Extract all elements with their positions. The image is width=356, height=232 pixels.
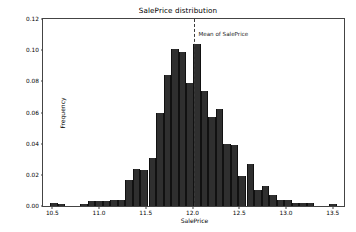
y-axis-tick-mark (41, 81, 44, 82)
mean-line-label: Mean of SalePrice (198, 31, 248, 37)
mean-line (194, 19, 195, 206)
histogram-bar (292, 203, 300, 206)
histogram-bar (125, 180, 133, 206)
histogram-bar (201, 91, 209, 206)
x-axis-tick-mark (52, 206, 53, 209)
y-axis-tick-mark (41, 143, 44, 144)
histogram-bar (223, 144, 231, 206)
histogram-bar (80, 204, 88, 206)
histogram-bar (186, 83, 194, 206)
histogram-bar (238, 176, 246, 206)
histogram-bar (58, 204, 66, 206)
histogram-bar (208, 117, 216, 206)
y-axis-tick-mark (41, 174, 44, 175)
histogram-bar (110, 200, 118, 206)
x-axis-tick-mark (286, 206, 287, 209)
x-axis-tick-mark (145, 206, 146, 209)
histogram-bar (140, 170, 148, 206)
histogram-bar (156, 113, 164, 207)
histogram-bar (254, 190, 262, 206)
y-axis-tick-mark (41, 50, 44, 51)
x-axis-tick-mark (332, 206, 333, 209)
y-axis-tick-mark (41, 19, 44, 20)
histogram-bar (231, 145, 239, 206)
histogram-bar (299, 203, 307, 206)
y-axis-tick-mark (41, 112, 44, 113)
histogram-bar (262, 186, 270, 206)
histogram-bar (179, 52, 187, 206)
x-axis-tick-mark (99, 206, 100, 209)
histogram-bar (149, 158, 157, 206)
histogram-bar (164, 75, 172, 206)
x-axis-tick-mark (239, 206, 240, 209)
histogram-bar (307, 203, 315, 206)
histogram-figure: SalePrice distribution Mean of SalePrice… (0, 0, 356, 232)
x-axis-label: SalePrice (43, 217, 346, 224)
y-axis-tick-mark (41, 206, 44, 207)
plot-area: Mean of SalePrice Frequency SalePrice 0.… (42, 18, 345, 207)
histogram-bar (269, 195, 277, 206)
y-axis-label: Frequency (59, 97, 66, 128)
histogram-bar (118, 200, 126, 206)
histogram-bar (133, 169, 141, 206)
page-title: SalePrice distribution (0, 6, 356, 15)
histogram-bar (216, 109, 224, 206)
histogram-bar (171, 49, 179, 206)
x-axis-tick-mark (192, 206, 193, 209)
histogram-bar (247, 164, 255, 206)
